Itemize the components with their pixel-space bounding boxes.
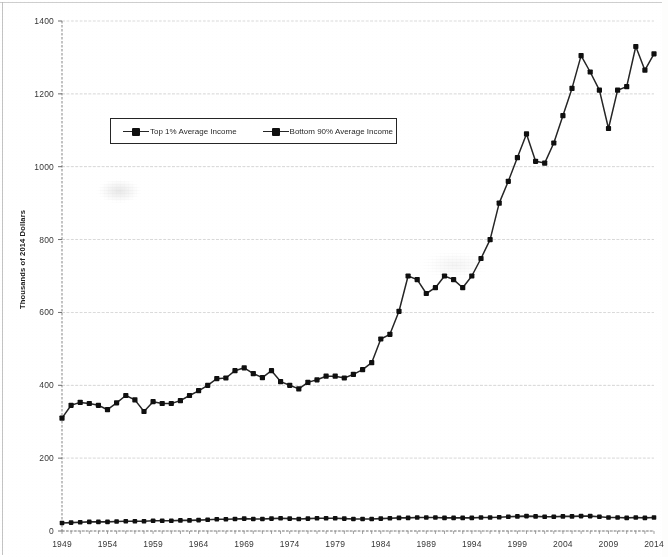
x-tick-label: 1989 (406, 539, 446, 549)
data-point-marker (606, 126, 611, 131)
data-point-marker (178, 398, 183, 403)
data-point-marker (242, 365, 247, 370)
x-tick-label: 2009 (588, 539, 628, 549)
data-point-marker (151, 399, 156, 404)
data-point-marker (597, 515, 602, 520)
data-point-marker (187, 393, 192, 398)
y-tick-label: 400 (16, 380, 54, 390)
data-point-marker (178, 518, 183, 523)
data-point-marker (379, 516, 384, 521)
data-point-marker (141, 409, 146, 414)
data-point-marker (479, 515, 484, 520)
data-point-marker (132, 397, 137, 402)
data-point-marker (433, 515, 438, 520)
data-point-marker (124, 519, 129, 524)
data-point-marker (169, 401, 174, 406)
x-tick-label: 1959 (133, 539, 173, 549)
data-point-marker (643, 516, 648, 521)
data-point-marker (624, 516, 629, 521)
x-tick-label: 1984 (361, 539, 401, 549)
data-point-marker (187, 518, 192, 523)
data-point-marker (442, 273, 447, 278)
data-point-marker (424, 291, 429, 296)
data-point-marker (169, 519, 174, 524)
data-point-marker (470, 516, 475, 521)
data-point-marker (515, 155, 520, 160)
x-tick-label: 1964 (179, 539, 219, 549)
data-point-marker (378, 336, 383, 341)
data-point-marker (233, 517, 238, 522)
data-point-marker (278, 379, 283, 384)
data-point-marker (451, 277, 456, 282)
data-point-marker (333, 374, 338, 379)
data-point-marker (551, 140, 556, 145)
data-point-marker (151, 519, 156, 524)
data-point-marker (579, 53, 584, 58)
data-point-marker (560, 113, 565, 118)
data-point-marker (542, 161, 547, 166)
data-point-marker (579, 514, 584, 519)
data-point-marker (196, 388, 201, 393)
data-point-marker (251, 517, 256, 522)
data-point-marker (615, 515, 620, 520)
data-point-marker (478, 256, 483, 261)
data-point-marker (369, 517, 374, 522)
data-point-marker (214, 376, 219, 381)
data-point-marker (60, 521, 65, 526)
data-point-marker (287, 383, 292, 388)
data-point-marker (142, 519, 147, 524)
data-point-marker (597, 88, 602, 93)
data-point-marker (160, 401, 165, 406)
data-point-marker (506, 179, 511, 184)
data-point-marker (297, 517, 302, 522)
x-tick-label: 2004 (543, 539, 583, 549)
data-point-marker (215, 517, 220, 522)
data-point-marker (652, 515, 657, 520)
data-point-marker (524, 514, 529, 519)
data-point-marker (542, 515, 547, 520)
data-point-marker (387, 332, 392, 337)
data-point-marker (369, 360, 374, 365)
data-point-marker (488, 237, 493, 242)
data-point-marker (105, 407, 110, 412)
data-point-marker (360, 517, 365, 522)
legend-label-bottom-90-percent: Bottom 90% Average Income (290, 127, 393, 136)
data-point-marker (205, 517, 210, 522)
data-point-marker (69, 520, 74, 525)
x-tick-label: 1974 (270, 539, 310, 549)
y-tick-label: 1000 (16, 162, 54, 172)
x-tick-label: 1979 (315, 539, 355, 549)
x-tick-label: 1949 (42, 539, 82, 549)
data-point-marker (606, 515, 611, 520)
data-point-marker (59, 416, 64, 421)
x-tick-label: 2014 (634, 539, 668, 549)
data-point-marker (351, 372, 356, 377)
legend-item-top-1-percent: Top 1% Average Income (123, 127, 237, 136)
data-point-marker (260, 517, 265, 522)
data-point-marker (242, 516, 247, 521)
data-point-marker (333, 516, 338, 521)
data-point-marker (342, 516, 347, 521)
data-point-marker (260, 375, 265, 380)
data-point-marker (196, 518, 201, 523)
data-point-marker (324, 516, 329, 521)
data-point-marker (469, 273, 474, 278)
legend-marker-icon (263, 127, 289, 136)
data-point-marker (451, 516, 456, 521)
chart-legend: Top 1% Average Income Bottom 90% Average… (110, 118, 397, 144)
data-point-marker (424, 515, 429, 520)
data-point-marker (533, 159, 538, 164)
y-tick-label: 200 (16, 453, 54, 463)
data-point-marker (570, 514, 575, 519)
data-point-marker (552, 515, 557, 520)
data-point-marker (269, 516, 274, 521)
data-point-marker (360, 367, 365, 372)
data-point-marker (305, 380, 310, 385)
y-tick-label: 1400 (16, 16, 54, 26)
data-point-marker (324, 374, 329, 379)
data-point-marker (223, 375, 228, 380)
data-point-marker (615, 88, 620, 93)
data-point-marker (105, 520, 110, 525)
data-point-marker (269, 368, 274, 373)
